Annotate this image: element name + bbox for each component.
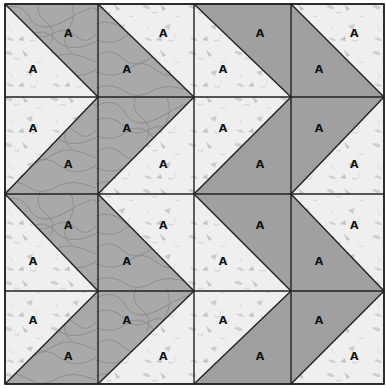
patch-label: A <box>256 350 265 363</box>
patch-label: A <box>256 158 265 171</box>
patch-label: A <box>350 158 359 171</box>
patch-label: A <box>29 122 38 135</box>
patch-label: A <box>64 219 73 232</box>
patch-label: A <box>256 27 265 40</box>
quilt-diagram: AAAAAAAAAAAAAAAAAAAAAAAAAAAAAAAA <box>0 0 386 388</box>
patch-label: A <box>159 27 168 40</box>
patch-label: A <box>315 122 324 135</box>
patch-label: A <box>123 122 132 135</box>
patch-label: A <box>315 255 324 268</box>
patch-label: A <box>219 122 228 135</box>
patch-label: A <box>256 219 265 232</box>
patch-label: A <box>29 255 38 268</box>
patch-label: A <box>29 314 38 327</box>
patch-label: A <box>350 350 359 363</box>
patch-label: A <box>64 350 73 363</box>
patch-label: A <box>219 314 228 327</box>
patch-label: A <box>315 314 324 327</box>
patch-label: A <box>159 158 168 171</box>
patch-label: A <box>219 255 228 268</box>
patch-label: A <box>123 63 132 76</box>
patch-label: A <box>159 219 168 232</box>
patch-label: A <box>123 255 132 268</box>
patch-label: A <box>159 350 168 363</box>
patch-label: A <box>219 63 228 76</box>
patch-label: A <box>350 219 359 232</box>
patch-label: A <box>123 314 132 327</box>
patch-label: A <box>29 63 38 76</box>
patch-label: A <box>64 158 73 171</box>
patch-label: A <box>350 27 359 40</box>
patch-label: A <box>315 63 324 76</box>
patch-label: A <box>64 27 73 40</box>
